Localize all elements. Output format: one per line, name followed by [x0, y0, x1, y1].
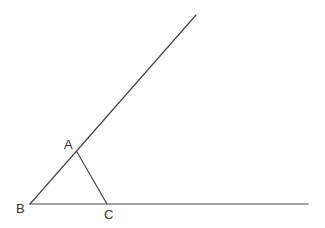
label-B: B [16, 201, 25, 216]
label-C: C [104, 207, 113, 222]
triangle-diagram: A B C [0, 0, 325, 228]
ray-BA [30, 15, 196, 204]
label-A: A [64, 137, 73, 152]
segment-AC [77, 152, 107, 204]
